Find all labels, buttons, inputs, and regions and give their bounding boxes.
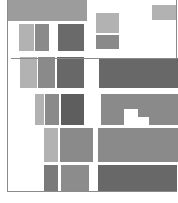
left-frame-line [7,0,8,192]
row3-dark-block [61,94,84,125]
row5-mid-block [61,165,89,192]
row1-right-light-block [96,13,119,33]
row1-dark-block [58,24,84,51]
row1-mid-block [35,24,49,51]
row4-right-block [98,128,178,162]
right-top-frame-line [176,0,177,58]
row3-light-block [35,94,44,125]
top-banner-block [7,0,87,21]
row5-mid-dark-block [44,165,58,192]
row2-light-block [20,57,37,88]
row2-mid-block [38,57,55,88]
row2-right-wide-block [99,58,178,88]
bottom-frame-line [7,191,177,192]
row3-notch-upper [124,109,138,125]
row3-mid-block [45,94,59,125]
upper-divider-line [11,58,177,59]
row2-dark-block [57,57,84,88]
top-right-small-block [152,5,176,20]
row5-right-dark-block [98,165,177,192]
row1-right-mid-block [96,35,119,49]
row1-light-block [19,24,34,51]
row4-light-block [44,128,58,162]
row4-mid-block [60,128,93,162]
row3-notch-lower [138,117,149,125]
